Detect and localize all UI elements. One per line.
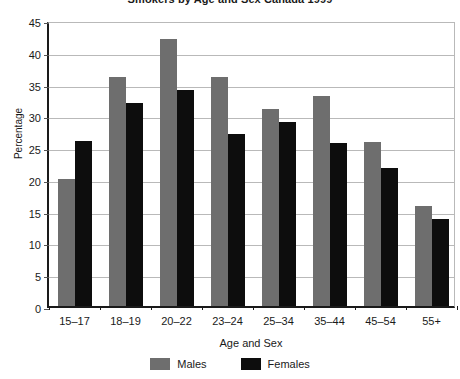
bar-group bbox=[304, 23, 355, 306]
bar-females bbox=[75, 141, 92, 306]
bar-group bbox=[100, 23, 151, 306]
x-axis-tick-label: 55+ bbox=[422, 315, 441, 327]
legend-swatch-icon bbox=[150, 358, 170, 370]
y-axis-tick-label: 35 bbox=[29, 81, 41, 93]
y-axis-tick-label: 10 bbox=[29, 239, 41, 251]
bar-females bbox=[279, 122, 296, 306]
chart-title: Smokers by Age and Sex Canada 1999 bbox=[0, 0, 460, 5]
x-axis-tick-label: 18–19 bbox=[110, 315, 141, 327]
legend-swatch-icon bbox=[241, 358, 261, 370]
y-axis-tick-label: 0 bbox=[35, 303, 41, 315]
legend-label: Males bbox=[177, 358, 206, 370]
legend-label: Females bbox=[268, 358, 310, 370]
bar-males bbox=[58, 179, 75, 306]
chart-figure: Smokers by Age and Sex Canada 1999 Perce… bbox=[0, 0, 460, 379]
x-axis-tick bbox=[406, 306, 407, 310]
x-axis-tick-label: 20–22 bbox=[161, 315, 192, 327]
x-axis-tick bbox=[49, 306, 50, 310]
x-axis-tick bbox=[457, 306, 458, 310]
y-axis-tick-label: 15 bbox=[29, 208, 41, 220]
x-axis-tick bbox=[202, 306, 203, 310]
y-axis-tick-label: 20 bbox=[29, 176, 41, 188]
bar-males bbox=[160, 39, 177, 306]
bar-males bbox=[364, 142, 381, 306]
x-axis-title: Age and Sex bbox=[47, 337, 455, 349]
bar-males bbox=[313, 96, 330, 306]
bar-group bbox=[406, 23, 457, 306]
y-axis-title: Percentage bbox=[13, 94, 24, 174]
x-axis-tick bbox=[151, 306, 152, 310]
y-axis-tick-label: 45 bbox=[29, 17, 41, 29]
bar-group bbox=[151, 23, 202, 306]
bar-males bbox=[109, 77, 126, 306]
bar-group bbox=[49, 23, 100, 306]
x-axis-tick bbox=[355, 306, 356, 310]
plot-area: 051015202530354045 15–1718–1920–2223–242… bbox=[47, 22, 455, 308]
x-axis-tick bbox=[100, 306, 101, 310]
y-axis-tick-label: 30 bbox=[29, 112, 41, 124]
bar-group bbox=[202, 23, 253, 306]
bar-females bbox=[126, 103, 143, 306]
x-axis-tick-label: 45–54 bbox=[365, 315, 396, 327]
bar-females bbox=[177, 90, 194, 306]
x-axis-tick bbox=[304, 306, 305, 310]
x-axis-tick-label: 23–24 bbox=[212, 315, 243, 327]
bar-females bbox=[228, 134, 245, 306]
bar-females bbox=[381, 168, 398, 306]
bar-males bbox=[262, 109, 279, 306]
legend-item-females[interactable]: Females bbox=[241, 358, 310, 370]
bar-females bbox=[330, 143, 347, 306]
bar-group bbox=[355, 23, 406, 306]
x-axis-tick-label: 35–44 bbox=[314, 315, 345, 327]
y-axis-tick-label: 25 bbox=[29, 144, 41, 156]
x-axis-tick bbox=[253, 306, 254, 310]
bar-females bbox=[432, 219, 449, 306]
chart-legend: MalesFemales bbox=[0, 358, 460, 370]
legend-item-males[interactable]: Males bbox=[150, 358, 206, 370]
bar-group bbox=[253, 23, 304, 306]
bar-males bbox=[211, 77, 228, 306]
x-axis-tick-label: 25–34 bbox=[263, 315, 294, 327]
bar-males bbox=[415, 206, 432, 306]
y-axis-tick-label: 40 bbox=[29, 49, 41, 61]
x-axis-tick-label: 15–17 bbox=[59, 315, 90, 327]
y-axis-tick-label: 5 bbox=[35, 271, 41, 283]
bar-series-container: 15–1718–1920–2223–2425–3435–4445–5455+ bbox=[49, 23, 454, 306]
